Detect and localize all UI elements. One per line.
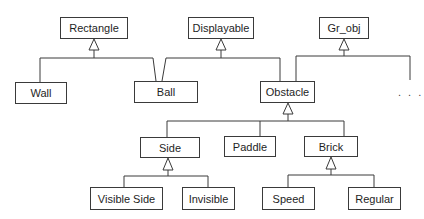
class-label: Regular xyxy=(355,193,394,205)
class-label: Obstacle xyxy=(266,86,309,98)
class-label: Ball xyxy=(157,86,175,98)
generalization-arrow-icon xyxy=(216,39,226,50)
class-label: Invisible xyxy=(189,193,229,205)
class-label: Brick xyxy=(319,141,343,153)
class-rectangle: Rectangle xyxy=(60,17,128,39)
class-brick: Brick xyxy=(304,136,358,157)
class-speed: Speed xyxy=(262,187,315,210)
class-displayable: Displayable xyxy=(188,17,254,39)
class-label: Speed xyxy=(273,193,305,205)
generalization-arrow-icon xyxy=(89,39,99,50)
class-visible-side: Visible Side xyxy=(90,187,163,210)
class-regular: Regular xyxy=(348,187,401,210)
class-label: Rectangle xyxy=(69,22,119,34)
class-side: Side xyxy=(140,137,200,158)
generalization-arrow-icon xyxy=(163,158,173,170)
class-label: Wall xyxy=(31,87,52,99)
class-label: Gr_obj xyxy=(327,22,360,34)
class-wall: Wall xyxy=(15,82,67,104)
generalization-arrow-icon xyxy=(326,157,336,169)
class-ball: Ball xyxy=(134,81,198,103)
class-label: Visible Side xyxy=(98,193,155,205)
class-label: Displayable xyxy=(193,22,250,34)
class-paddle: Paddle xyxy=(224,136,276,157)
class-obstacle: Obstacle xyxy=(260,81,315,103)
generalization-arrow-icon xyxy=(339,39,349,50)
class-invisible: Invisible xyxy=(182,187,235,210)
more-classes-ellipsis: . . . xyxy=(398,86,423,98)
class-label: Side xyxy=(159,142,181,154)
generalization-arrow-icon xyxy=(283,103,293,114)
class-label: Paddle xyxy=(233,141,267,153)
class-gr-obj: Gr_obj xyxy=(319,17,369,39)
